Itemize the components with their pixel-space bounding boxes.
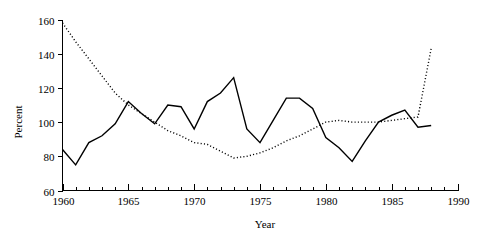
x-axis-major-ticks [64,184,459,191]
y-axis-tick-labels: 6080100120140160 [38,15,55,198]
line-chart: Percent Year 6080100120140160 1960196519… [0,0,497,234]
y-tick-label: 140 [38,49,55,61]
y-tick-label: 100 [38,117,55,129]
x-tick-label: 1970 [184,195,207,207]
x-axis-title: Year [255,218,276,230]
series-line-dotted [63,23,432,158]
chart-figure: Percent Year 6080100120140160 1960196519… [0,0,497,234]
y-tick-label: 160 [38,15,55,27]
x-tick-label: 1975 [250,195,273,207]
x-tick-label: 1985 [382,195,405,207]
y-tick-label: 120 [38,83,55,95]
y-axis-title: Percent [12,106,24,139]
x-tick-label: 1980 [316,195,339,207]
x-axis-tick-labels: 1960196519701975198019851990 [53,195,471,207]
series-line-solid [63,78,432,165]
x-tick-label: 1965 [118,195,141,207]
y-tick-label: 80 [44,151,56,163]
x-tick-label: 1960 [53,195,76,207]
x-tick-label: 1990 [448,195,471,207]
y-axis-ticks [58,21,63,192]
